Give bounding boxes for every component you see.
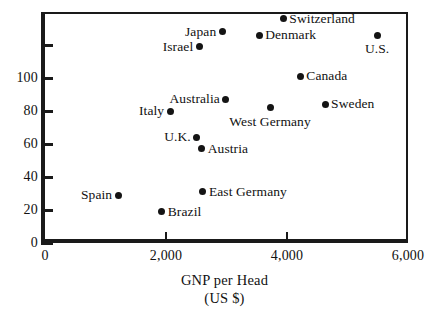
data-point-marker xyxy=(322,101,329,108)
x-tick-label: 4,000 xyxy=(247,248,327,264)
x-axis-units: (US $) xyxy=(41,290,408,307)
x-tick-label: 2,000 xyxy=(126,248,206,264)
plot-frame xyxy=(41,12,408,243)
data-point-marker xyxy=(256,32,263,39)
y-tick-0 xyxy=(41,242,53,245)
data-point-marker xyxy=(115,192,122,199)
y-tick-label: 60 xyxy=(0,137,38,151)
data-point-label: Sweden xyxy=(331,97,374,111)
x-tick-4,000 xyxy=(286,232,288,243)
data-point-marker xyxy=(167,108,174,115)
y-tick-60 xyxy=(41,143,53,146)
data-point-label: Denmark xyxy=(265,28,316,42)
data-point-label: U.S. xyxy=(365,42,389,56)
data-point-label: U.K. xyxy=(164,130,191,144)
data-point-marker xyxy=(297,73,304,80)
data-point-label: Brazil xyxy=(168,205,202,219)
data-point-label: East Germany xyxy=(209,185,287,199)
x-tick-2,000 xyxy=(165,232,167,243)
data-point-marker xyxy=(374,32,381,39)
x-tick-label: 0 xyxy=(5,248,85,264)
data-point-marker xyxy=(280,15,287,22)
y-tick-40 xyxy=(41,176,53,179)
data-point-marker xyxy=(196,43,203,50)
x-axis-title: GNP per Head xyxy=(41,272,408,289)
y-tick-120 xyxy=(41,44,53,47)
x-tick-label: 6,000 xyxy=(368,248,440,264)
data-point-label: Japan xyxy=(185,25,216,39)
data-point-label: Canada xyxy=(306,69,347,83)
scatter-chart: 020406080100 02,0004,0006,000 Switzerlan… xyxy=(0,0,440,319)
y-tick-label: 80 xyxy=(0,104,38,118)
data-point-label: Italy xyxy=(139,104,164,118)
data-point-label: Switzerland xyxy=(289,12,355,26)
y-tick-80 xyxy=(41,110,53,113)
data-point-label: Australia xyxy=(170,92,220,106)
data-point-label: West Germany xyxy=(229,115,310,129)
y-tick-label: 100 xyxy=(0,71,38,85)
data-point-label: Spain xyxy=(81,188,112,202)
y-tick-label: 20 xyxy=(0,203,38,217)
y-tick-20 xyxy=(41,209,53,212)
data-point-marker xyxy=(267,104,274,111)
y-tick-100 xyxy=(41,77,53,80)
data-point-label: Israel xyxy=(163,40,194,54)
y-tick-label: 40 xyxy=(0,170,38,184)
data-point-label: Austria xyxy=(208,142,248,156)
